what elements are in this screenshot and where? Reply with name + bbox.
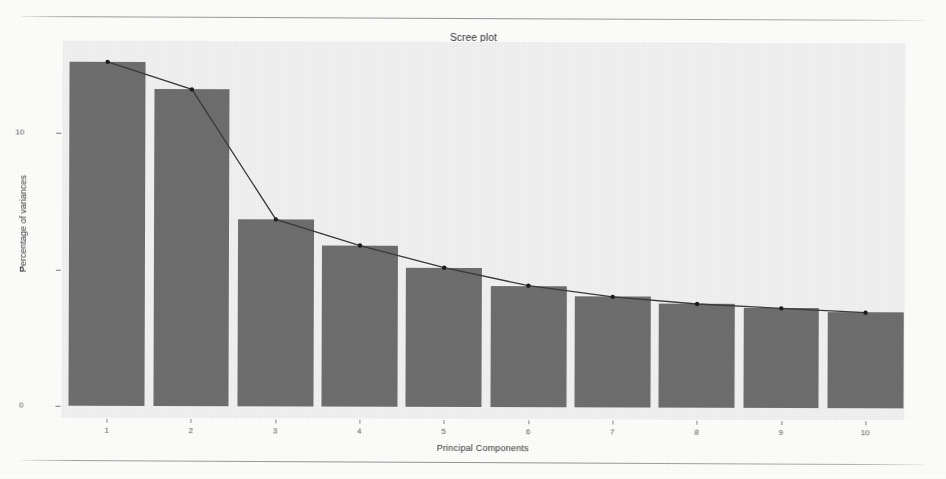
y-tick-label-0: 0 [1,401,23,410]
x-tick-mark-3 [275,419,276,423]
x-tick-label-1: 1 [92,426,122,435]
bar-pc-2 [153,89,230,406]
bars-layer [61,41,905,421]
x-tick-label-2: 2 [176,426,206,435]
bar-pc-4 [322,245,398,406]
y-tick-mark-10 [56,133,61,134]
x-tick-label-4: 4 [344,427,374,436]
x-tick-label-5: 5 [429,427,459,436]
x-tick-mark-9 [781,421,782,425]
scree-plot-figure: Scree plot 0510 12345678910 Percentage o… [0,0,946,479]
y-axis-title: Percentage of variances [18,124,29,324]
x-axis-ticks: 12345678910 [1,0,946,1]
x-tick-mark-6 [528,420,529,424]
x-tick-label-9: 9 [766,428,796,437]
x-tick-mark-5 [444,420,445,424]
bar-pc-9 [743,308,819,408]
bar-pc-10 [827,313,903,409]
bar-pc-5 [406,268,482,407]
y-axis-ticks: 0510 [1,0,946,1]
y-tick-mark-0 [55,406,60,407]
bar-pc-8 [659,304,735,408]
x-tick-mark-8 [697,421,698,425]
bar-pc-6 [490,286,566,408]
y-tick-mark-5 [56,269,61,270]
scanned-page: the one has been unattainable due to the… [0,0,946,479]
x-axis-title: Principal Components [61,442,904,455]
x-tick-label-10: 10 [850,428,880,437]
x-tick-mark-10 [865,421,866,425]
x-tick-mark-2 [191,419,192,423]
x-tick-label-6: 6 [513,427,543,436]
bar-pc-7 [574,297,650,408]
x-tick-mark-7 [612,420,613,424]
x-tick-mark-1 [107,419,108,423]
x-tick-label-8: 8 [682,428,712,437]
x-tick-label-3: 3 [260,426,290,435]
x-tick-mark-4 [359,420,360,424]
bar-pc-1 [69,62,146,406]
bar-pc-3 [237,219,313,406]
x-tick-label-7: 7 [597,427,627,436]
